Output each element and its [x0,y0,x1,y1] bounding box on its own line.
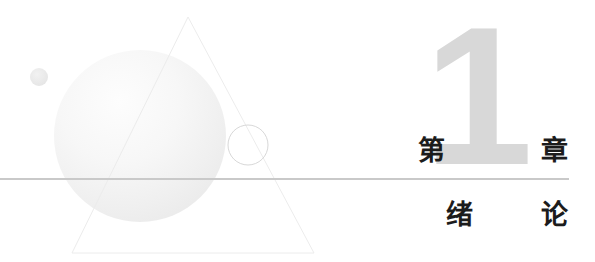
ring-outline [228,125,268,165]
chapter-prefix-label: 第 [418,129,445,168]
gradient-sphere [54,50,226,222]
chapter-subject-char-1: 绪 [446,193,473,232]
small-dot [30,68,48,86]
heading-rule [0,178,569,180]
chapter-heading: 第 章 [418,126,568,170]
chapter-title-page: 1 第 章 绪 论 [0,0,595,262]
chapter-subject-char-2: 论 [541,193,568,232]
chapter-subject: 绪 论 [446,190,568,234]
chapter-suffix-label: 章 [541,129,568,168]
triangle-outline [72,17,314,253]
